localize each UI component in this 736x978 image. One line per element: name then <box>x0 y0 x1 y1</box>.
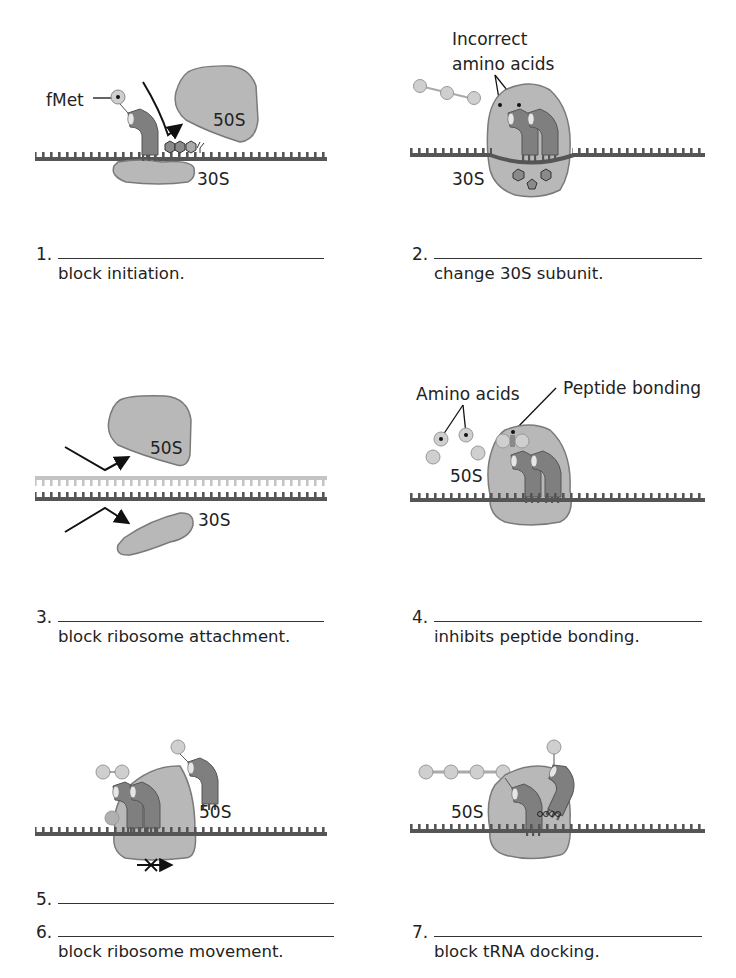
free-amino-acids <box>426 428 485 464</box>
antibiotic-molecule <box>165 141 204 153</box>
mrna-strand <box>410 824 705 833</box>
item-number-7: 7. <box>412 922 428 942</box>
label-peptide-bonding: Peptide bonding <box>563 378 701 398</box>
panel-5-6-movement: 50S <box>35 740 327 871</box>
mrna-strand <box>410 493 705 502</box>
panel-1-initiation: 50S 30S fMet <box>35 66 327 189</box>
mrna-strand <box>35 492 327 501</box>
blocked-movement-arrow <box>137 859 170 871</box>
label-amino-acids: Amino acids <box>416 384 520 404</box>
item-number-1: 1. <box>36 244 52 264</box>
item-number-5: 5. <box>36 889 52 909</box>
polypeptide-chain <box>419 765 510 779</box>
label-50s: 50S <box>450 466 482 486</box>
caption-4: inhibits peptide bonding. <box>434 627 640 646</box>
item-number-2: 2. <box>412 244 428 264</box>
answer-blank-4[interactable] <box>434 621 702 622</box>
label-30s: 30S <box>197 169 229 189</box>
label-amino-acids: amino acids <box>452 54 555 74</box>
item-number-6: 6. <box>36 922 52 942</box>
small-subunit-30s <box>113 160 194 184</box>
answer-blank-2[interactable] <box>434 258 702 259</box>
panel-3-attachment: 50S 30S <box>35 396 327 555</box>
label-50s: 50S <box>213 110 245 130</box>
antibiotic-mechanisms-diagram: 50S 30S fMet Incorrect amino acids <box>0 0 736 978</box>
answer-blank-3[interactable] <box>58 621 324 622</box>
answer-blank-5[interactable] <box>58 903 334 904</box>
label-30s: 30S <box>452 169 484 189</box>
mrna-strand <box>35 152 327 161</box>
answer-blank-7[interactable] <box>434 936 702 937</box>
item-number-3: 3. <box>36 607 52 627</box>
label-50s: 50S <box>150 438 182 458</box>
caption-7: block tRNA docking. <box>434 942 600 961</box>
label-fmet: fMet <box>46 90 84 110</box>
caption-1: block initiation. <box>58 264 185 283</box>
label-30s: 30S <box>198 510 230 530</box>
mrna-strand <box>35 827 327 836</box>
caption-6: block ribosome movement. <box>58 942 284 961</box>
label-incorrect: Incorrect <box>452 29 528 49</box>
panel-2-30s-change: Incorrect amino acids 30S <box>410 29 705 197</box>
panel-7-trna-docking: 50S <box>410 740 705 859</box>
answer-blank-1[interactable] <box>58 258 324 259</box>
block-arrow-bottom <box>65 508 127 532</box>
label-50s: 50S <box>451 802 483 822</box>
answer-blank-6[interactable] <box>58 936 334 937</box>
mrna-light <box>35 476 327 486</box>
large-subunit-50s <box>175 66 258 142</box>
small-subunit-30s <box>118 513 194 555</box>
caption-3: block ribosome attachment. <box>58 627 290 646</box>
item-number-4: 4. <box>412 607 428 627</box>
caption-2: change 30S subunit. <box>434 264 603 283</box>
label-50s: 50S <box>199 802 231 822</box>
block-arrow-top <box>65 447 127 470</box>
panel-4-peptide-bonding: Amino acids Peptide bonding 50S <box>410 378 705 525</box>
polypeptide-chain <box>414 80 481 105</box>
